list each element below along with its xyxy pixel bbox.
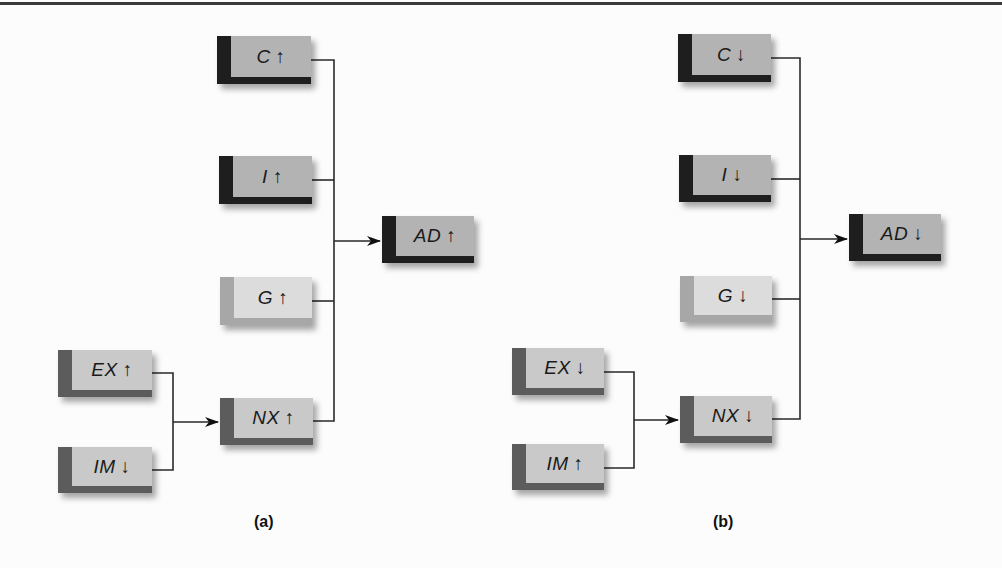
box-label: C bbox=[717, 44, 731, 66]
arrow-down-icon: ↓ bbox=[121, 456, 131, 478]
arrow-down-icon: ↓ bbox=[732, 164, 742, 186]
box-net-exports-down: NX↓ bbox=[680, 396, 772, 443]
box-label: IM bbox=[546, 453, 568, 475]
panel-b-trade-bus bbox=[604, 372, 634, 468]
box-label: IM bbox=[93, 456, 115, 478]
box-consumption-down: C↓ bbox=[678, 34, 771, 82]
panel-b-label: (b) bbox=[713, 513, 733, 531]
box-label: I bbox=[722, 164, 728, 186]
arrow-down-icon: ↓ bbox=[576, 357, 586, 379]
box-label: NX bbox=[712, 405, 739, 427]
box-label: I bbox=[262, 166, 268, 188]
box-aggregate-demand-up: AD↑ bbox=[382, 216, 474, 263]
box-aggregate-demand-down: AD↓ bbox=[849, 214, 941, 261]
box-label: AD bbox=[414, 225, 441, 247]
arrow-up-icon: ↑ bbox=[273, 166, 283, 188]
arrow-down-icon: ↓ bbox=[913, 223, 923, 245]
box-exports-down: EX↓ bbox=[512, 348, 604, 395]
panel-b-main-bus bbox=[771, 58, 800, 419]
box-net-exports-up: NX↑ bbox=[220, 398, 313, 445]
panel-a-label: (a) bbox=[254, 513, 274, 531]
arrow-up-icon: ↑ bbox=[574, 453, 584, 475]
arrow-down-icon: ↓ bbox=[744, 405, 754, 427]
box-investment-down: I↓ bbox=[679, 155, 771, 202]
box-label: G bbox=[258, 287, 273, 309]
box-label: AD bbox=[881, 223, 908, 245]
arrow-down-icon: ↓ bbox=[738, 285, 748, 307]
arrow-up-icon: ↑ bbox=[285, 407, 295, 429]
box-investment-up: I↑ bbox=[219, 156, 312, 204]
box-label: G bbox=[718, 285, 733, 307]
box-label: EX bbox=[544, 357, 570, 379]
arrow-up-icon: ↑ bbox=[446, 225, 456, 247]
box-label: NX bbox=[252, 407, 279, 429]
arrow-down-icon: ↓ bbox=[736, 44, 746, 66]
box-exports-up: EX↑ bbox=[58, 350, 152, 397]
panel-a-trade-bus bbox=[152, 373, 173, 470]
box-imports-up: IM↑ bbox=[512, 444, 604, 490]
arrow-up-icon: ↑ bbox=[276, 46, 286, 68]
arrow-up-icon: ↑ bbox=[123, 359, 133, 381]
box-government-up: G↑ bbox=[220, 277, 312, 325]
box-government-down: G↓ bbox=[680, 276, 772, 322]
aggregate-demand-diagram: C↑ I↑ G↑ NX↑ EX↑ IM↓ AD↑ (a) C↓ I↓ G↓ NX… bbox=[0, 0, 1002, 568]
box-imports-down: IM↓ bbox=[58, 447, 152, 493]
arrow-up-icon: ↑ bbox=[278, 287, 288, 309]
panel-a-main-bus bbox=[311, 60, 334, 421]
box-label: C bbox=[256, 46, 270, 68]
box-consumption-up: C↑ bbox=[217, 36, 311, 84]
box-label: EX bbox=[91, 359, 117, 381]
